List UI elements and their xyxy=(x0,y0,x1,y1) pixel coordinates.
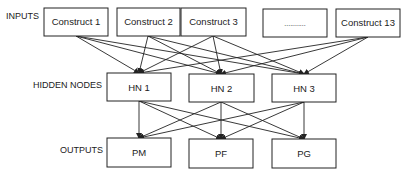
input-node-construct-3: Construct 3 xyxy=(181,8,246,36)
neural-network-diagram: INPUTS HIDDEN NODES OUTPUTS Construct 1 … xyxy=(0,0,409,175)
input-node-label: Construct 1 xyxy=(52,16,101,27)
hidden-node-label: HN 2 xyxy=(211,83,233,94)
input-node-construct-13: Construct 13 xyxy=(336,9,400,37)
output-node-label: PM xyxy=(132,147,146,158)
output-node-label: PG xyxy=(297,148,311,159)
hidden-node-hn-1: HN 1 xyxy=(107,73,171,101)
edge-hidden-3-to-output-1 xyxy=(139,102,304,138)
ellipsis-placeholder-label: ........... xyxy=(284,20,305,27)
input-node-construct-2: Construct 2 xyxy=(117,8,180,36)
input-node-label: Construct 2 xyxy=(124,16,173,27)
layer-label-outputs: OUTPUTS xyxy=(60,145,103,155)
edge-input-3-to-hidden-2 xyxy=(213,36,221,74)
hidden-node-hn-2: HN 2 xyxy=(189,74,254,102)
layer-label-inputs: INPUTS xyxy=(6,11,39,21)
input-node-ellipsis: ........... xyxy=(263,9,327,37)
edge-hidden-2-to-output-1 xyxy=(139,102,221,138)
output-node-pm: PM xyxy=(107,138,171,167)
input-node-label: Construct 3 xyxy=(189,16,238,27)
input-node-label: Construct 13 xyxy=(341,17,395,28)
output-node-pg: PG xyxy=(272,139,336,168)
edge-input-2-to-hidden-2 xyxy=(148,36,221,74)
output-node-pf: PF xyxy=(189,139,253,168)
edge-input-4-to-hidden-2 xyxy=(221,37,368,74)
output-node-label: PF xyxy=(215,148,227,159)
edge-input-1-to-hidden-3 xyxy=(76,36,304,74)
hidden-node-label: HN 3 xyxy=(293,83,315,94)
layer-label-hidden: HIDDEN NODES xyxy=(33,80,102,90)
hidden-node-hn-3: HN 3 xyxy=(272,74,336,102)
hidden-node-label: HN 1 xyxy=(128,82,150,93)
input-node-construct-1: Construct 1 xyxy=(44,8,108,36)
edge-input-4-to-hidden-3 xyxy=(304,37,368,74)
